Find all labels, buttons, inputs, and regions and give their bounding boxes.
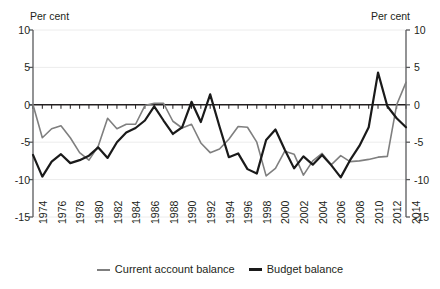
- x-axis-tick-label: 1988: [168, 201, 180, 224]
- y-axis-tick-label-right: -10: [414, 174, 429, 186]
- y-axis-tick-label-right: 5: [414, 61, 420, 73]
- legend-label-current-account-balance: Current account balance: [115, 264, 235, 275]
- x-axis-tick-label: 1974: [37, 201, 49, 224]
- x-axis-tick-label: 1992: [205, 201, 217, 224]
- y-axis-tick-label-right: 10: [414, 24, 426, 36]
- x-axis-tick-label: 2002: [298, 201, 310, 224]
- x-axis-tick-label: 2010: [373, 201, 385, 224]
- legend-item-budget-balance: Budget balance: [249, 264, 343, 275]
- chart-figure: Per cent Per cent 1050-5-10-15 1050-5-10…: [0, 0, 440, 289]
- plot-area: [0, 0, 440, 289]
- y-axis-tick-label-left: -5: [21, 136, 30, 148]
- y-axis-tick-label-left: 10: [18, 24, 30, 36]
- x-axis-tick-label: 2008: [354, 201, 366, 224]
- x-axis-tick-label: 2004: [317, 201, 329, 224]
- x-axis-tick-label: 2006: [335, 201, 347, 224]
- y-axis-tick-label-left: 0: [24, 99, 30, 111]
- legend-swatch-current-account-balance: [97, 269, 110, 271]
- y-axis-tick-label-left: -10: [15, 174, 30, 186]
- x-axis-tick-label: 1990: [186, 201, 198, 224]
- legend-swatch-budget-balance: [249, 268, 262, 271]
- x-axis-tick-label: 1980: [93, 201, 105, 224]
- x-axis-tick-label: 1978: [74, 201, 86, 224]
- x-axis-tick-label: 1994: [224, 201, 236, 224]
- y-axis-tick-label-right: 0: [414, 99, 420, 111]
- y-axis-tick-label-left: -15: [15, 211, 30, 223]
- series-line-budget-balance: [33, 73, 406, 178]
- legend-item-current-account-balance: Current account balance: [97, 264, 235, 275]
- chart-legend: Current account balance Budget balance: [0, 264, 440, 275]
- x-axis-tick-label: 1984: [130, 201, 142, 224]
- y-axis-tick-label-right: -5: [414, 136, 423, 148]
- x-axis-tick-label: 1996: [242, 201, 254, 224]
- x-axis-tick-label: 2012: [391, 201, 403, 224]
- x-axis-tick-label: 2014: [410, 201, 422, 224]
- x-axis-tick-label: 2000: [279, 201, 291, 224]
- x-axis-tick-label: 1986: [149, 201, 161, 224]
- x-axis-tick-label: 1982: [112, 201, 124, 224]
- x-axis-tick-label: 1976: [56, 201, 68, 224]
- y-axis-tick-label-left: 5: [24, 61, 30, 73]
- left-axis-unit-label: Per cent: [30, 10, 69, 22]
- x-axis-tick-label: 1998: [261, 201, 273, 224]
- legend-label-budget-balance: Budget balance: [267, 264, 343, 275]
- right-axis-unit-label: Per cent: [371, 10, 410, 22]
